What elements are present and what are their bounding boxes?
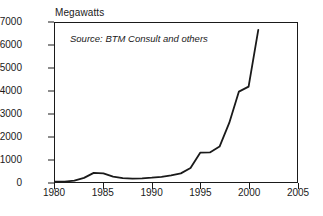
wind-capacity-line-chart: Megawatts 01000200030004000500060007000 …	[0, 0, 323, 216]
x-axis-tick-mark	[200, 183, 201, 189]
x-axis-tick-label: 1995	[189, 188, 211, 198]
y-axis-tick-label: 3000	[0, 109, 22, 119]
data-series-line	[55, 30, 258, 182]
y-axis-tick-label: 5000	[0, 63, 22, 73]
x-axis-tick-mark	[54, 183, 55, 189]
plot-area: Source: BTM Consult and others	[54, 22, 298, 183]
y-axis-tick-label: 1000	[0, 155, 22, 165]
y-axis-tick-label: 2000	[0, 132, 22, 142]
y-axis-tick-label: 4000	[0, 86, 22, 96]
x-axis-tick-label: 2005	[287, 188, 309, 198]
y-axis-tick-label: 7000	[0, 17, 22, 27]
x-axis-tick-mark	[249, 183, 250, 189]
x-axis-tick-mark	[103, 183, 104, 189]
x-axis-tick-mark	[152, 183, 153, 189]
x-axis-tick-label: 1990	[140, 188, 162, 198]
data-line-svg	[55, 23, 297, 182]
y-axis-tick-label: 0	[16, 178, 22, 188]
y-axis-unit-label: Megawatts	[55, 7, 104, 18]
x-axis-tick-label: 1985	[92, 188, 114, 198]
x-axis-tick-label: 2000	[238, 188, 260, 198]
y-axis-tick-label: 6000	[0, 40, 22, 50]
x-axis-tick-label: 1980	[43, 188, 65, 198]
x-axis-tick-mark	[298, 183, 299, 189]
